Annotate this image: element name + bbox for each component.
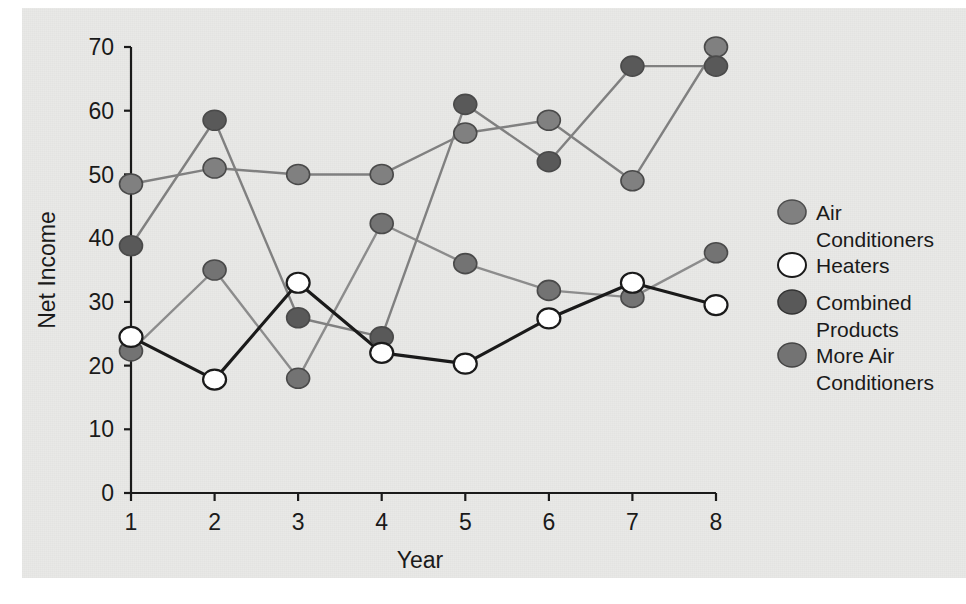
x-tick-label-1: 1 xyxy=(125,509,138,535)
data-point xyxy=(120,236,143,256)
data-point xyxy=(621,171,644,191)
data-point xyxy=(203,260,226,280)
marker-swatch-combined-products-icon xyxy=(778,290,806,314)
x-axis-ticks xyxy=(131,493,716,501)
marker-swatch-air-conditioners-icon xyxy=(778,200,806,224)
data-point xyxy=(454,254,477,274)
y-tick-label-70: 70 xyxy=(88,34,114,60)
legend-label-more-air-conditioners-line2: Conditioners xyxy=(816,371,934,394)
data-point xyxy=(705,243,728,263)
x-tick-label-4: 4 xyxy=(375,509,388,535)
data-point xyxy=(287,308,310,328)
x-tick-label-2: 2 xyxy=(208,509,221,535)
data-point xyxy=(203,158,226,178)
data-point xyxy=(454,94,477,114)
y-tick-label-10: 10 xyxy=(88,416,114,442)
data-point xyxy=(621,56,644,76)
x-tick-label-8: 8 xyxy=(710,509,723,535)
x-axis-title: Year xyxy=(397,547,444,573)
data-point xyxy=(287,368,310,388)
data-point xyxy=(454,354,477,374)
x-tick-label-5: 5 xyxy=(459,509,472,535)
data-point xyxy=(705,295,728,315)
legend-label-air-conditioners-line1: Air xyxy=(816,201,842,224)
data-point xyxy=(370,343,393,363)
data-point xyxy=(454,123,477,143)
line-chart: 0 10 20 30 40 50 60 70 1 2 3 4 5 6 7 8 Y… xyxy=(0,0,966,604)
data-point xyxy=(370,213,393,233)
legend-label-combined-products-line2: Products xyxy=(816,318,899,341)
data-point xyxy=(705,37,728,57)
x-tick-label-3: 3 xyxy=(292,509,305,535)
data-point xyxy=(287,273,310,293)
data-point xyxy=(370,164,393,184)
marker-swatch-heaters-icon xyxy=(778,253,806,277)
chart-figure: 0 10 20 30 40 50 60 70 1 2 3 4 5 6 7 8 Y… xyxy=(0,0,966,604)
series-markers-group xyxy=(120,37,728,390)
data-point xyxy=(120,174,143,194)
data-point xyxy=(287,164,310,184)
data-point xyxy=(621,273,644,293)
legend-label-heaters-line1: Heaters xyxy=(816,254,890,277)
data-point xyxy=(203,110,226,130)
y-tick-label-60: 60 xyxy=(88,98,114,124)
y-tick-label-40: 40 xyxy=(88,225,114,251)
y-tick-label-20: 20 xyxy=(88,353,114,379)
data-point xyxy=(120,327,143,347)
legend-label-combined-products-line1: Combined xyxy=(816,291,912,314)
data-point xyxy=(203,370,226,390)
y-tick-label-30: 30 xyxy=(88,289,114,315)
legend-label-more-air-conditioners-line1: More Air xyxy=(816,344,894,367)
legend-label-air-conditioners-line2: Conditioners xyxy=(816,228,934,251)
y-tick-label-0: 0 xyxy=(101,480,114,506)
y-axis-title: Net Income xyxy=(34,211,60,329)
y-tick-label-50: 50 xyxy=(88,162,114,188)
marker-swatch-more-air-conditioners-icon xyxy=(778,343,806,367)
data-point xyxy=(705,56,728,76)
x-tick-label-7: 7 xyxy=(626,509,639,535)
series-lines-group xyxy=(131,47,716,380)
data-point xyxy=(537,308,560,328)
data-point xyxy=(537,152,560,172)
x-tick-label-6: 6 xyxy=(543,509,556,535)
data-point xyxy=(537,110,560,130)
data-point xyxy=(537,280,560,300)
chart-legend: Air Conditioners Heaters Combined Produc… xyxy=(778,200,934,394)
